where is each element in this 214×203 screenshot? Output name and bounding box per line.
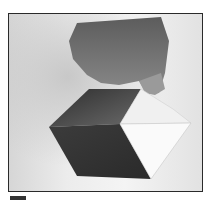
caption-mark	[10, 196, 26, 200]
photo-illustration	[9, 14, 203, 192]
photo-frame	[8, 13, 203, 192]
